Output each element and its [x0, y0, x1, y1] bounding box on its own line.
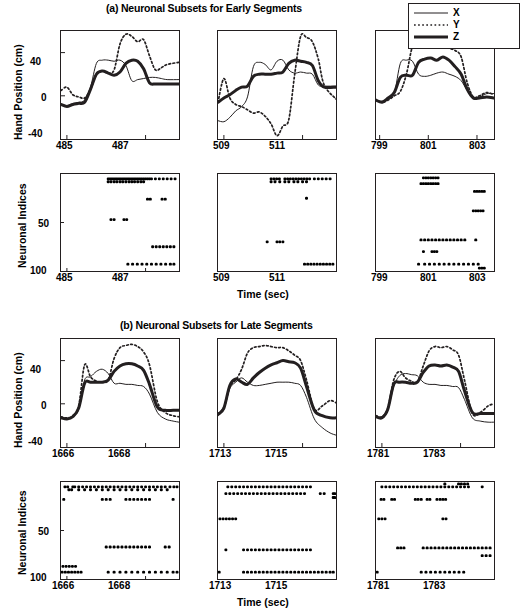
raster-b1-xtick-0: 1666	[52, 580, 74, 591]
panel-b-xlabel: Time (sec)	[237, 596, 289, 608]
raster-a2-xtick-0: 509	[213, 272, 230, 283]
legend-label-x: X	[453, 7, 460, 19]
raster-b2-xtick-0: 1713	[209, 580, 231, 591]
panel-a-ytick-0: 0	[41, 92, 47, 103]
raster-a1-xtick-1: 487	[112, 272, 129, 283]
legend-swatch-z	[413, 31, 449, 43]
panel-b-rtick-50: 50	[38, 526, 49, 537]
panel-a2-xtick-1: 511	[269, 140, 285, 151]
panel-a-rtick-50: 50	[38, 218, 49, 229]
plot-hand-position-b2	[217, 338, 337, 448]
legend-swatch-x	[413, 7, 449, 19]
legend-entry-y: Y	[413, 19, 515, 31]
panel-a1-xtick-0: 485	[56, 140, 73, 151]
panel-b-rtick-100: 100	[30, 572, 47, 583]
legend: X Y Z	[408, 3, 520, 49]
raster-a3-xtick-2: 803	[469, 272, 486, 283]
raster-b3-xtick-0: 1781	[367, 580, 389, 591]
raster-b3-xtick-1: 1783	[423, 580, 445, 591]
panel-b-title: (b) Neuronal Subsets for Late Segments	[120, 319, 313, 331]
raster-a2-xtick-1: 511	[269, 272, 285, 283]
figure-root: (a) Neuronal Subsets for Early Segments …	[0, 0, 527, 614]
panel-a-title: (a) Neuronal Subsets for Early Segments	[106, 2, 302, 14]
panel-a-xlabel: Time (sec)	[237, 288, 289, 300]
plot-hand-position-b1	[60, 338, 180, 448]
panel-a3-xtick-0: 799	[371, 140, 388, 151]
panel-a-ytick--40: -40	[28, 128, 42, 139]
panel-a1-xtick-1: 487	[112, 140, 129, 151]
plot-hand-position-a1	[60, 30, 180, 140]
plot-raster-b1	[60, 481, 180, 580]
panel-a3-xtick-1: 801	[420, 140, 437, 151]
plot-raster-a3	[375, 173, 495, 272]
panel-b-ylabel-position: Hand Position (cm)	[12, 352, 24, 448]
plot-raster-b3	[375, 481, 495, 580]
raster-a1-xtick-0: 485	[56, 272, 73, 283]
legend-label-y: Y	[453, 19, 460, 31]
plot-hand-position-b3	[375, 338, 495, 448]
raster-b2-xtick-1: 1715	[265, 580, 287, 591]
panel-b3-xtick-1: 1783	[423, 448, 445, 459]
plot-raster-b2	[217, 481, 337, 580]
panel-a-ylabel-position: Hand Position (cm)	[12, 44, 24, 140]
panel-a-rtick-100: 100	[30, 265, 47, 276]
raster-a3-xtick-1: 801	[420, 272, 437, 283]
raster-b1-xtick-1: 1668	[108, 580, 130, 591]
plot-hand-position-a2	[217, 30, 337, 140]
panel-b1-xtick-0: 1666	[52, 448, 74, 459]
panel-b2-xtick-0: 1713	[209, 448, 231, 459]
panel-b1-xtick-1: 1668	[108, 448, 130, 459]
panel-b-ytick--40: -40	[28, 436, 42, 447]
panel-b-ytick-40: 40	[30, 364, 41, 375]
raster-a3-xtick-0: 799	[371, 272, 388, 283]
panel-b-ytick-0: 0	[41, 400, 47, 411]
legend-label-z: Z	[453, 31, 459, 43]
panel-b-ylabel-indices: Neuronal Indices	[16, 490, 28, 575]
panel-a-ylabel-indices: Neuronal Indices	[16, 183, 28, 268]
plot-raster-a1	[60, 173, 180, 272]
legend-swatch-y	[413, 19, 449, 31]
plot-raster-a2	[217, 173, 337, 272]
panel-b3-xtick-0: 1781	[367, 448, 389, 459]
panel-a-ytick-40: 40	[30, 56, 41, 67]
legend-entry-z: Z	[413, 31, 515, 43]
panel-b2-xtick-1: 1715	[265, 448, 287, 459]
panel-a2-xtick-0: 509	[213, 140, 230, 151]
legend-entry-x: X	[413, 7, 515, 19]
panel-a3-xtick-2: 803	[469, 140, 486, 151]
